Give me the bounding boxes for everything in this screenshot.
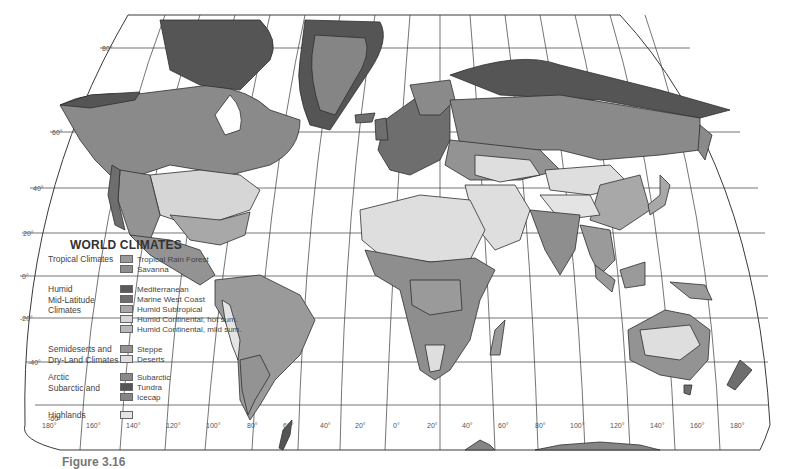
lat-label-80: 80° [102, 45, 113, 52]
tasmania [684, 385, 692, 395]
legend-group-tropical: Tropical Climates [48, 254, 113, 265]
legend-item-humid-continental-hot: Humid Continental, hot sum. [120, 314, 238, 324]
lon-label-120w: 120° [166, 422, 180, 429]
british-isles [375, 118, 388, 140]
lon-label-40w: 40° [320, 422, 331, 429]
africa-sahara [360, 195, 485, 262]
iceland [355, 113, 375, 123]
lon-label-100w: 100° [206, 422, 220, 429]
north-america-tundra [160, 20, 273, 90]
lon-label-160e: 160° [690, 422, 704, 429]
swatch-marine-west-coast [120, 295, 133, 303]
legend-title: WORLD CLIMATES [70, 238, 182, 252]
lon-label-60e: 60° [498, 422, 509, 429]
legend-group-highlands: Highlands [48, 410, 86, 421]
swatch-highlands [120, 411, 133, 419]
swatch-icecap [120, 393, 133, 401]
lon-label-180e: 180° [730, 422, 744, 429]
madagascar [490, 320, 505, 355]
legend-item-tundra: Tundra [120, 382, 162, 392]
swatch-humid-continental-mild [120, 325, 133, 333]
new-guinea [670, 282, 712, 300]
legend-item-humid-continental-mild: Humid Continental, mild sum. [120, 324, 241, 334]
lon-label-140w: 140° [126, 422, 140, 429]
lon-label-80e: 80° [535, 422, 546, 429]
lon-label-140e: 140° [650, 422, 664, 429]
figure-caption: Figure 3.16 [62, 455, 125, 469]
swatch-mediterranean [120, 285, 133, 293]
lat-label-60: 60° [52, 129, 63, 136]
swatch-tundra [120, 383, 133, 391]
legend-item-icecap: Icecap [120, 392, 161, 402]
lat-label-20: 20° [23, 230, 34, 237]
swatch-tropical-rain-forest [120, 255, 133, 263]
swatch-humid-continental-hot [120, 315, 133, 323]
lon-label-80w: 80° [247, 422, 258, 429]
lon-label-20e: 20° [427, 422, 438, 429]
legend-item-humid-subtropical: Humid Subtropical [120, 304, 202, 314]
landmasses [60, 20, 752, 450]
antarctica-east-2 [535, 442, 660, 450]
lon-label-180w: 180° [42, 422, 56, 429]
lon-label-40e: 40° [462, 422, 473, 429]
swatch-savanna [120, 265, 133, 273]
new-zealand [727, 360, 752, 390]
legend-item-marine-west-coast: Marine West Coast [120, 294, 205, 304]
swatch-deserts [120, 355, 133, 363]
lon-label-160w: 160° [86, 422, 100, 429]
japan [648, 175, 670, 215]
borneo [620, 262, 645, 288]
legend-group-arctic: Arctic Subarctic and [48, 372, 100, 393]
swatch-subarctic [120, 373, 133, 381]
lon-label-0: 0° [393, 422, 400, 429]
swatch-humid-subtropical [120, 305, 133, 313]
legend-item-deserts: Deserts [120, 354, 165, 364]
lon-label-120e: 120° [610, 422, 624, 429]
legend-group-humid-mid-latitude: Humid Mid-Latitude Climates [48, 284, 95, 316]
legend-item-mediterranean: Mediterranean [120, 284, 189, 294]
legend-item-subarctic: Subarctic [120, 372, 170, 382]
lon-label-60w: 60° [283, 422, 294, 429]
lon-label-20w: 20° [355, 422, 366, 429]
antarctica-east-1 [465, 440, 495, 450]
legend-item-tropical-rain-forest: Tropical Rain Forest [120, 254, 209, 264]
legend-item-highlands [120, 410, 137, 420]
swatch-steppe [120, 345, 133, 353]
kamchatka [698, 125, 712, 160]
lon-label-100e: 100° [570, 422, 584, 429]
legend-item-steppe: Steppe [120, 344, 162, 354]
lat-label-minus40: -40° [28, 359, 41, 366]
legend-item-savanna: Savanna [120, 264, 169, 274]
india [530, 210, 580, 275]
legend-group-dry-land: Semideserts and Dry-Land Climates [48, 344, 118, 365]
lat-label-40: 40° [33, 185, 44, 192]
lat-label-minus20: -20° [20, 315, 33, 322]
lat-label-0: 0° [22, 273, 29, 280]
